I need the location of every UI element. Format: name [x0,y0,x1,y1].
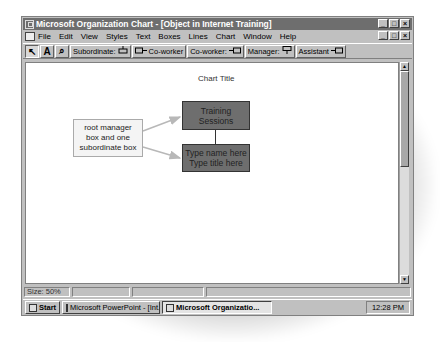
minimize-button[interactable]: _ [378,19,388,28]
chart-canvas[interactable]: Chart Title Training Sessions Type name … [25,62,399,284]
org-chart-icon [166,304,174,312]
taskbar-powerpoint[interactable]: Microsoft PowerPoint - [Int... [62,301,160,314]
magnifier-icon: ⌕ [59,45,65,57]
root-box-line2: Sessions [183,116,249,126]
callout-line1: root manager [74,123,142,133]
menu-bar: File Edit View Styles Text Boxes Lines C… [23,30,412,42]
doc-restore-button[interactable]: □ [389,31,399,40]
subordinate-box[interactable]: Type name here Type title here [182,144,250,172]
assistant-box-icon [331,47,343,56]
system-clock: 12:28 PM [366,301,410,314]
windows-logo-icon [29,304,37,312]
text-tool-button[interactable]: A [40,45,54,58]
callout-line2: box and one [74,133,142,143]
coworker-right-button[interactable]: Co-worker: [187,45,244,58]
menu-chart[interactable]: Chart [216,32,236,41]
assistant-label: Assistant [299,47,329,56]
coworker-left-button[interactable]: Co-worker [132,45,187,58]
subordinate-button[interactable]: Subordinate: [70,45,131,58]
annotation-callout: root manager box and one subordinate box [73,119,143,157]
maximize-button[interactable]: □ [389,19,399,28]
window-controls: _ □ × [378,19,410,28]
coworker-right-box-icon [229,47,241,56]
arrow-pointer-icon: ↖ [28,46,36,57]
menu-file[interactable]: File [38,32,51,41]
menu-lines[interactable]: Lines [189,32,208,41]
taskbar: Start Microsoft PowerPoint - [Int... Mic… [23,299,412,315]
task-label-org-chart: Microsoft Organizatio... [176,303,259,312]
org-chart-app-icon [25,20,34,29]
subordinate-label: Subordinate: [73,47,116,56]
window-title: Microsoft Organization Chart - [Object i… [36,19,272,29]
menu-help[interactable]: Help [280,32,296,41]
root-manager-box[interactable]: Training Sessions [182,101,250,130]
sub-box-name: Type name here [183,148,249,158]
title-bar[interactable]: Microsoft Organization Chart - [Object i… [23,18,412,30]
vertical-scrollbar[interactable]: ▲ ▼ [399,62,409,284]
org-chart-window: Microsoft Organization Chart - [Object i… [21,16,414,316]
document-window-controls: _ □ × [378,31,410,40]
zoom-size-status: Size: 50% [24,287,70,297]
taskbar-org-chart[interactable]: Microsoft Organizatio... [162,301,272,314]
status-cell-3 [132,287,204,297]
manager-label: Manager: [248,47,280,56]
status-cell-2 [72,287,130,297]
callout-line3: subordinate box [74,143,142,153]
coworker-right-label: Co-worker: [190,47,227,56]
manager-box-icon [282,46,292,56]
coworker-left-box-icon [135,47,147,56]
scroll-down-arrow-icon[interactable]: ▼ [400,275,409,284]
menu-styles[interactable]: Styles [106,32,128,41]
doc-close-button[interactable]: × [400,31,410,40]
close-button[interactable]: × [400,19,410,28]
start-label: Start [39,303,56,312]
subordinate-box-icon [118,46,128,56]
coworker-left-label: Co-worker [149,47,184,56]
zoom-tool-button[interactable]: ⌕ [55,45,69,58]
toolbar: ↖ A ⌕ Subordinate: Co-worker Co-worker: [23,43,412,59]
callout-arrows [26,63,400,285]
status-bar: Size: 50% [24,286,411,297]
menu-view[interactable]: View [81,32,98,41]
start-button[interactable]: Start [25,301,60,314]
menu-edit[interactable]: Edit [59,32,73,41]
status-cell-4 [206,287,411,297]
assistant-button[interactable]: Assistant [296,45,346,58]
root-box-line1: Training [183,106,249,116]
text-a-icon: A [43,46,50,57]
menu-text[interactable]: Text [136,32,151,41]
select-tool-button[interactable]: ↖ [25,45,39,58]
scroll-up-arrow-icon[interactable]: ▲ [400,62,409,71]
manager-button[interactable]: Manager: [245,45,295,58]
scroll-thumb[interactable] [400,71,409,167]
org-connector-line [215,130,216,144]
menu-boxes[interactable]: Boxes [158,32,180,41]
task-label-powerpoint: Microsoft PowerPoint - [Int... [70,303,160,312]
powerpoint-icon [66,304,68,312]
document-icon[interactable] [25,32,35,41]
doc-minimize-button[interactable]: _ [378,31,388,40]
menu-window[interactable]: Window [243,32,271,41]
sub-box-title: Type title here [183,158,249,168]
